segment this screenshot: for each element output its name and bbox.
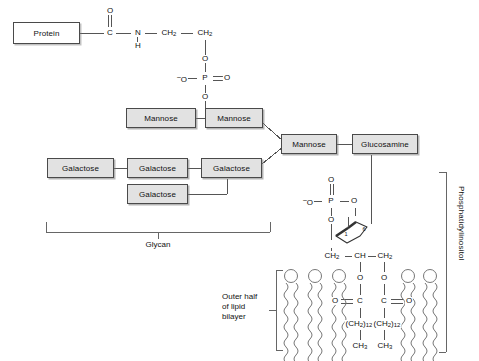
amide-hydrogen-label: H [134, 42, 142, 50]
carbonyl-oxygen-label: O [106, 7, 114, 15]
mannose-b-label: Mannose [217, 114, 251, 123]
outer-half-line-1: Outer half [222, 292, 257, 302]
outer-half-bracket-label: Outer half of lipid bilayer [222, 292, 257, 322]
gpi-anchor-diagram: Protein Mannose Mannose Mannose Glucosam… [0, 0, 479, 361]
protein-box[interactable]: Protein [13, 22, 80, 44]
galactose-2-label: Galactose [139, 164, 176, 173]
phosphatidylinositol-bracket-label: Phosphatidylinositol [456, 186, 466, 261]
ester-oxygen-right: O [380, 274, 388, 282]
glycerol-ch2-left-label: CH2 [324, 252, 341, 260]
phospholipid-left-group [284, 270, 346, 361]
phospholipid [423, 270, 437, 361]
carbonyl-left-carbon: C [356, 297, 364, 305]
protein-box-label: Protein [33, 29, 59, 38]
phosphate2-oxygen-bottom: O [327, 216, 335, 224]
mannose-core-label: Mannose [292, 140, 326, 149]
phosphate1-ester-o-upper: O [201, 55, 209, 63]
ester-oxygen-left: O [356, 274, 364, 282]
galactose-3-box[interactable]: Galactose [201, 158, 262, 178]
galactose-3-label: Galactose [213, 164, 250, 173]
phosphate2-oxygen-right: O [350, 197, 358, 205]
galactose-4-box[interactable]: Galactose [127, 184, 188, 204]
glycerol-ch2-right-label: CH2 [377, 252, 394, 260]
ethanolamine-ch2-b-label: CH2 [197, 29, 214, 37]
galactose-4-label: Galactose [139, 190, 176, 199]
phospholipid [332, 270, 346, 361]
glucosamine-label: Glucosamine [361, 140, 409, 149]
phospholipid [401, 270, 415, 361]
amide-nitrogen-label: N [134, 29, 142, 37]
methyl-right-label: CH3 [377, 342, 394, 350]
phosphate1-oxygen-right: O [223, 74, 231, 82]
phosphate2-phosphorus: P [327, 197, 334, 205]
glycan-bracket-label: Glycan [146, 240, 171, 250]
galactose-1-label: Galactose [62, 164, 99, 173]
carbonyl-left-oxygen: O [331, 297, 339, 305]
carbonyl-right-oxygen: O [405, 297, 413, 305]
inositol-c1-label: 1 [343, 232, 348, 238]
phosphate1-phosphorus: P [201, 74, 208, 82]
galactose-2-box[interactable]: Galactose [127, 158, 188, 178]
amide-carbon-label: C [106, 29, 114, 37]
glycerol-ch-label: CH [353, 252, 367, 260]
phosphate2-oxygen-top: O [327, 176, 335, 184]
inositol-c6-label: 6 [361, 227, 366, 233]
acyl-chain-left-label: (CH2)12 [345, 320, 374, 328]
glucosamine-box[interactable]: Glucosamine [352, 134, 418, 154]
galactose-1-box[interactable]: Galactose [47, 158, 114, 178]
acyl-chain-right-label: (CH2)12 [373, 320, 402, 328]
outer-half-line-3: bilayer [222, 312, 257, 322]
phospholipid-right-group [401, 270, 437, 361]
phospholipid [308, 270, 322, 361]
ethanolamine-ch2-a-label: CH2 [161, 29, 178, 37]
mannose-a-box[interactable]: Mannose [126, 108, 196, 128]
phosphate1-ester-o-lower: O [201, 93, 209, 101]
mannose-core-box[interactable]: Mannose [281, 134, 337, 154]
methyl-left-label: CH3 [352, 342, 369, 350]
phosphate1-oxygen-left: –O [176, 73, 188, 84]
mannose-a-label: Mannose [144, 114, 178, 123]
outer-half-line-2: of lipid [222, 302, 257, 312]
phosphate2-oxygen-left: –O [302, 196, 314, 207]
phospholipid [284, 270, 298, 361]
carbonyl-right-carbon: C [380, 297, 388, 305]
mannose-b-box[interactable]: Mannose [205, 108, 263, 128]
